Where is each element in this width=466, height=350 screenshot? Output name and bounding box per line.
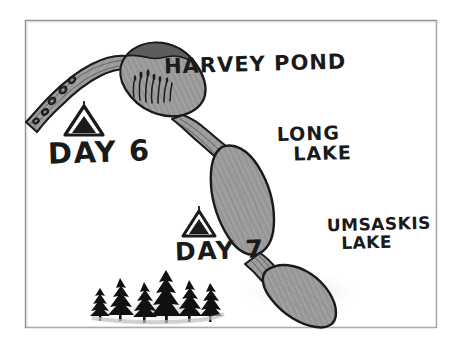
label-long-lake-line2: LAKE: [277, 143, 352, 165]
label-umsaskis-lake: UMSASKIS LAKE: [327, 215, 432, 253]
label-day6: DAY 6: [48, 136, 151, 169]
label-harvey-pond: HARVEY POND: [164, 52, 347, 78]
label-day7: DAY 7: [175, 236, 265, 264]
map-illustration: HARVEY POND LONG LAKE UMSASKIS LAKE DAY …: [0, 0, 466, 350]
label-umsaskis-lake-line2: LAKE: [327, 232, 432, 253]
label-long-lake: LONG LAKE: [276, 123, 352, 165]
